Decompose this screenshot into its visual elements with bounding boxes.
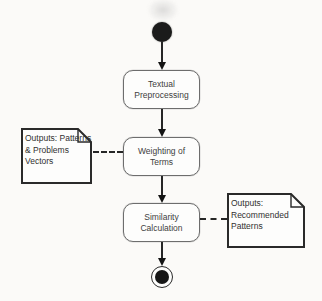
note-text-line: Patterns xyxy=(231,221,289,233)
arrowhead-down-icon xyxy=(158,129,166,137)
flow-line-weighting-to-similarity xyxy=(161,176,163,195)
activity-diagram-canvas: Textual Preprocessing Weighting of Terms… xyxy=(0,0,322,301)
flow-line-similarity-to-final xyxy=(161,242,163,258)
activity-label-line: Textual xyxy=(148,79,175,90)
note-text-line: Recommended xyxy=(231,210,289,222)
note-outputs-patterns-problems-vectors: Outputs: Patterns & Problems Vectors xyxy=(21,128,92,184)
scan-artifact xyxy=(147,0,179,22)
activity-label-line: Terms xyxy=(150,157,173,168)
activity-final-node-icon xyxy=(151,266,173,288)
note-text-line: Outputs: xyxy=(231,198,289,210)
note-text-line: Vectors xyxy=(25,156,91,168)
note-text-line: & Problems xyxy=(25,145,91,157)
activity-label-line: Preprocessing xyxy=(134,90,188,101)
flow-line-preprocessing-to-weighting xyxy=(161,109,163,129)
note-connector-left xyxy=(93,151,123,153)
initial-node-icon xyxy=(152,22,172,42)
activity-final-node-core xyxy=(155,270,169,284)
arrowhead-down-icon xyxy=(158,195,166,203)
activity-label-line: Weighting of xyxy=(138,146,185,157)
note-outputs-recommended-patterns: Outputs: Recommended Patterns xyxy=(227,193,305,248)
note-text-line: Outputs: Patterns xyxy=(25,133,91,145)
arrowhead-down-icon xyxy=(158,62,166,70)
activity-textual-preprocessing: Textual Preprocessing xyxy=(123,70,200,109)
arrowhead-down-icon xyxy=(158,258,166,266)
activity-label-line: Calculation xyxy=(140,223,182,234)
note-connector-right xyxy=(200,218,227,220)
activity-weighting-of-terms: Weighting of Terms xyxy=(123,137,200,176)
activity-label-line: Similarity xyxy=(144,212,178,223)
note-text: Outputs: Recommended Patterns xyxy=(231,198,289,233)
flow-line-start-to-preprocessing xyxy=(161,42,163,62)
note-text: Outputs: Patterns & Problems Vectors xyxy=(25,133,91,168)
activity-similarity-calculation: Similarity Calculation xyxy=(123,203,200,242)
